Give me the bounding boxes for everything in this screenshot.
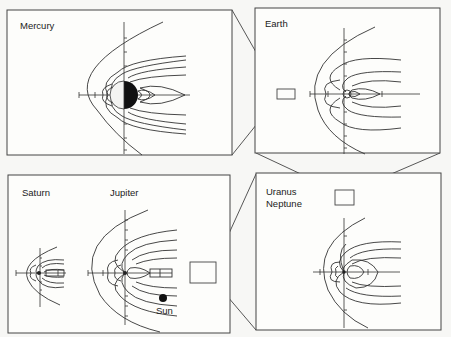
panel-uranus-neptune: Uranus Neptune [256, 173, 441, 330]
uranus-zoom-box [335, 190, 354, 205]
panel-label-neptune: Neptune [266, 198, 302, 209]
magnetosphere-diagram: Mercury Earth [0, 0, 451, 337]
sun-label: Sun [156, 305, 173, 316]
panel-saturn-jupiter: Saturn Jupiter [8, 175, 230, 333]
panel-earth: Earth [255, 8, 440, 154]
earth-zoom-box [277, 89, 295, 99]
panel-label-earth: Earth [265, 18, 288, 29]
panel-label-uranus: Uranus [266, 186, 297, 197]
jupiter-zoom-box [190, 262, 216, 283]
panel-label-mercury: Mercury [20, 20, 55, 31]
panel-label-jupiter: Jupiter [110, 187, 139, 198]
panel-label-saturn: Saturn [22, 187, 50, 198]
sun-marker [159, 294, 167, 302]
panel-mercury: Mercury [7, 10, 232, 155]
